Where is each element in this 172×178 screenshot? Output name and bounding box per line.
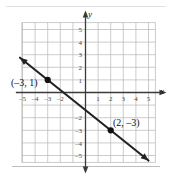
y-tick-label: –3 xyxy=(74,127,83,135)
x-tick-label: –5 xyxy=(18,95,27,103)
y-tick-label: 1 xyxy=(79,77,83,85)
y-tick-label: –2 xyxy=(74,114,83,122)
graph-figure: –5–4–3–212345 54321–2–3–4–5 x y (–3, 1) … xyxy=(0,0,172,178)
data-point xyxy=(108,127,114,133)
plotted-line xyxy=(20,58,149,161)
y-tick-label: –4 xyxy=(74,140,83,148)
coordinate-plane: –5–4–3–212345 54321–2–3–4–5 x y (–3, 1) … xyxy=(0,0,172,178)
x-tick-label: –2 xyxy=(56,95,65,103)
x-tick-label: 5 xyxy=(147,95,151,103)
x-axis-label: x xyxy=(159,86,164,96)
y-tick-label: 5 xyxy=(79,26,83,34)
y-tick-label: 4 xyxy=(79,39,83,47)
x-tick-label: 1 xyxy=(96,95,100,103)
point-label-b: (2, –3) xyxy=(113,117,140,129)
x-tick-label: 2 xyxy=(109,95,113,103)
y-tick-label: 2 xyxy=(79,64,83,72)
x-axis-tick-labels: –5–4–3–212345 xyxy=(18,95,151,103)
x-tick-label: –3 xyxy=(43,95,52,103)
axes xyxy=(16,11,167,174)
y-tick-label: –5 xyxy=(74,152,83,160)
data-point xyxy=(45,77,51,83)
y-axis-label: y xyxy=(87,9,92,19)
x-tick-label: 3 xyxy=(122,95,126,103)
x-tick-label: 4 xyxy=(134,95,138,103)
y-tick-label: 3 xyxy=(79,51,83,59)
point-label-a: (–3, 1) xyxy=(11,77,38,89)
x-tick-label: –4 xyxy=(31,95,40,103)
